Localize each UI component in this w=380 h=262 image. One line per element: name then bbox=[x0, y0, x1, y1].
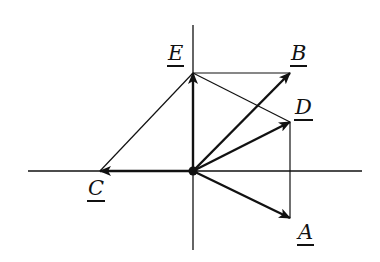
vector-label-d: D bbox=[294, 97, 313, 121]
vector-label-e: E bbox=[167, 43, 184, 67]
vector-a-arrow bbox=[193, 171, 290, 218]
construction-lines bbox=[100, 73, 290, 218]
vector-label-c: C bbox=[87, 178, 105, 202]
construction-line-e-c bbox=[100, 73, 193, 171]
construction-line-e-d bbox=[193, 73, 290, 122]
origin-point bbox=[189, 167, 198, 176]
vector-b-arrow bbox=[193, 73, 290, 171]
vector-d-arrow bbox=[193, 122, 290, 171]
vectors bbox=[100, 73, 290, 218]
vector-label-a: A bbox=[297, 222, 314, 246]
axes bbox=[28, 25, 362, 250]
vector-diagram bbox=[0, 0, 380, 262]
vector-label-b: B bbox=[290, 43, 307, 67]
